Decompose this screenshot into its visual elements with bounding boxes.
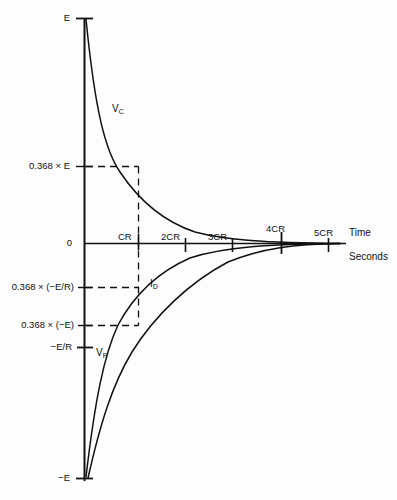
curve-label-vr-sub: R <box>103 352 108 359</box>
curve-label-vr-main: V <box>96 347 103 358</box>
curve-label-vc-sub: C <box>119 108 124 115</box>
y-label-0368E: 0.368 × E <box>0 161 70 171</box>
y-label-0368-negEoverR: 0.368 × (−E/R) <box>0 282 74 292</box>
y-label-negEoverR: −E/R <box>0 342 72 352</box>
curve-id <box>86 244 340 478</box>
rc-discharge-figure: E 0.368 × E 0 0.368 × (−E/R) 0.368 × (−E… <box>0 0 397 500</box>
curve-label-id-sub: D <box>153 283 158 290</box>
x-axis-title-time: Time <box>349 228 371 238</box>
y-label-0368-negE: 0.368 × (−E) <box>0 320 74 330</box>
curve-label-vc: VC <box>112 104 124 114</box>
curve-label-vr: VR <box>96 348 108 358</box>
x-label-4CR: 4CR <box>266 224 285 234</box>
x-label-2CR: 2CR <box>161 232 180 242</box>
curve-label-vc-main: V <box>112 103 119 114</box>
x-label-CR: CR <box>118 232 132 242</box>
curve-vc <box>86 19 340 244</box>
y-label-origin: 0 <box>0 238 72 248</box>
y-label-E: E <box>0 13 70 23</box>
curve-vr <box>88 244 340 479</box>
x-label-5CR: 5CR <box>314 228 333 238</box>
x-axis-unit-seconds: Seconds <box>349 252 388 262</box>
curve-label-id: ID <box>150 279 158 289</box>
y-label-negE: −E <box>0 473 70 483</box>
plot-canvas <box>0 0 397 500</box>
x-label-3CR: 3CR <box>208 232 227 242</box>
